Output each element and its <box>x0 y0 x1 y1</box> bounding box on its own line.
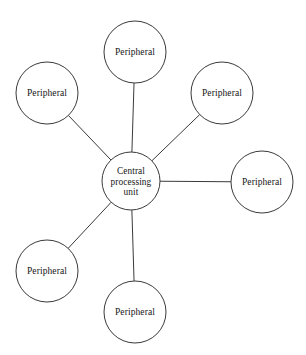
node-central-processing-unit[interactable]: Centralprocessingunit <box>102 152 160 210</box>
star-topology-diagram: PeripheralPeripheralPeripheralPeripheral… <box>0 0 306 355</box>
connection-line-upper-right <box>152 115 200 161</box>
peripheral-top-label: Peripheral <box>115 47 155 57</box>
node-peripheral-upper-left[interactable]: Peripheral <box>16 62 78 124</box>
node-peripheral-upper-right[interactable]: Peripheral <box>191 62 253 124</box>
nodes-group: PeripheralPeripheralPeripheralPeripheral… <box>16 21 293 343</box>
node-peripheral-top[interactable]: Peripheral <box>104 21 166 83</box>
node-peripheral-lower-left[interactable]: Peripheral <box>16 240 78 302</box>
peripheral-upper-left-label: Peripheral <box>27 88 67 98</box>
peripheral-lower-left-label: Peripheral <box>27 266 67 276</box>
peripheral-right-label: Peripheral <box>242 177 282 187</box>
connection-line-right <box>160 181 231 182</box>
connection-line-bottom <box>132 210 134 281</box>
peripheral-bottom-label: Peripheral <box>115 307 155 317</box>
central-processing-unit-label-line-1: Central <box>117 166 145 176</box>
central-processing-unit-label-line-2: processing <box>111 177 152 187</box>
central-processing-unit-label-line-3: unit <box>124 187 139 197</box>
connection-line-top <box>132 83 134 152</box>
node-peripheral-right[interactable]: Peripheral <box>231 151 293 213</box>
topology-svg-canvas: PeripheralPeripheralPeripheralPeripheral… <box>0 0 306 355</box>
node-peripheral-bottom[interactable]: Peripheral <box>104 281 166 343</box>
connection-line-upper-left <box>68 115 111 160</box>
connection-line-lower-left <box>68 202 111 248</box>
peripheral-upper-right-label: Peripheral <box>202 88 242 98</box>
